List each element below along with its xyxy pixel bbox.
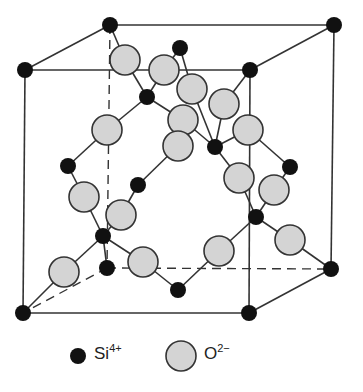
legend-o-icon <box>166 341 196 371</box>
legend-si: Si4+ <box>94 342 122 364</box>
legend-si-icon <box>70 348 86 364</box>
legend-o-label: O2− <box>204 342 230 364</box>
silicon-atom <box>15 305 31 321</box>
crystal-structure-diagram <box>0 0 363 392</box>
oxygen-atom <box>69 182 99 212</box>
oxygen-atom <box>168 105 198 135</box>
oxygen-atom <box>163 131 193 161</box>
oxygen-atom <box>224 163 254 193</box>
silicon-atom <box>170 282 186 298</box>
silicon-atom <box>248 209 264 225</box>
silicon-atom <box>60 158 76 174</box>
oxygen-atom <box>275 225 305 255</box>
oxygen-atom <box>49 257 79 287</box>
silicon-atom <box>282 159 298 175</box>
legend-si-label: Si4+ <box>94 342 122 364</box>
oxygen-atom <box>259 175 289 205</box>
oxygen-atom <box>92 115 122 145</box>
oxygen-atom <box>106 200 136 230</box>
oxygen-atom <box>204 236 234 266</box>
silicon-atom <box>99 260 115 276</box>
silicon-atom <box>130 177 146 193</box>
oxygen-atom <box>177 74 207 104</box>
silicon-atom <box>95 228 111 244</box>
silicon-atom <box>326 17 342 33</box>
silicon-atom <box>17 62 33 78</box>
oxygen-atom <box>209 89 239 119</box>
oxygen-atom <box>233 115 263 145</box>
silicon-atom <box>242 62 258 78</box>
silicon-atom <box>102 17 118 33</box>
silicon-atom <box>241 305 257 321</box>
silicon-atom <box>139 89 155 105</box>
legend-icons <box>70 341 196 371</box>
silicon-atom <box>323 261 339 277</box>
silicon-atom <box>172 40 188 56</box>
oxygen-atom <box>110 45 140 75</box>
oxygen-atom <box>149 55 179 85</box>
silicon-atom <box>207 139 223 155</box>
oxygen-atom <box>128 247 158 277</box>
legend-o: O2− <box>204 342 230 364</box>
